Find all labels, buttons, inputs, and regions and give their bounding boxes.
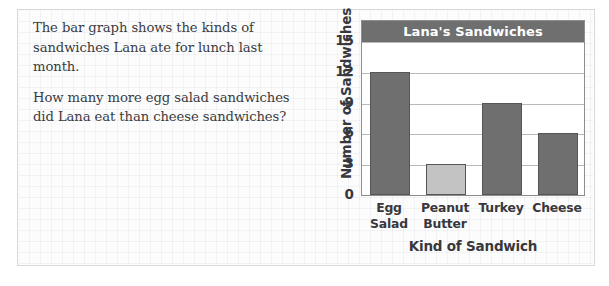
question-text-block: The bar graph shows the kinds of sandwic… — [33, 18, 298, 127]
x-tick-line: Butter — [417, 216, 473, 232]
x-tick-cheese: Cheese — [529, 200, 585, 216]
chart-title-band: Lana's Sandwiches — [362, 21, 584, 42]
x-tick-peanut-butter: PeanutButter — [417, 200, 473, 232]
x-axis-title: Kind of Sandwich — [361, 238, 585, 254]
y-tick-15: 15 — [335, 34, 354, 48]
worksheet-page: The bar graph shows the kinds of sandwic… — [0, 0, 609, 286]
x-tick-line: Egg — [361, 200, 417, 216]
x-axis-tick-labels: EggSaladPeanutButterTurkeyCheese — [361, 200, 585, 236]
x-tick-line: Cheese — [529, 200, 585, 216]
bar-turkey — [482, 103, 522, 195]
x-tick-line: Peanut — [417, 200, 473, 216]
y-tick-0: 0 — [345, 188, 354, 202]
bar-cheese — [538, 133, 578, 195]
x-tick-line: Turkey — [473, 200, 529, 216]
bar-series — [362, 21, 584, 195]
prompt-paragraph-2: How many more egg salad sandwiches did L… — [33, 88, 298, 127]
y-axis-tick-labels: 03691215 — [318, 20, 354, 196]
y-tick-3: 3 — [345, 157, 354, 171]
x-tick-line: Salad — [361, 216, 417, 232]
bar-peanut-butter — [426, 164, 466, 195]
y-tick-6: 6 — [345, 127, 354, 141]
y-tick-9: 9 — [345, 96, 354, 110]
x-tick-turkey: Turkey — [473, 200, 529, 216]
bar-chart: Number of Sandwiches 03691215 Lana's San… — [306, 14, 593, 261]
prompt-paragraph-1: The bar graph shows the kinds of sandwic… — [33, 18, 298, 77]
x-tick-egg-salad: EggSalad — [361, 200, 417, 232]
bar-egg-salad — [370, 72, 410, 195]
chart-title: Lana's Sandwiches — [403, 24, 543, 39]
plot-area: Lana's Sandwiches — [361, 20, 585, 196]
y-tick-12: 12 — [335, 65, 354, 79]
